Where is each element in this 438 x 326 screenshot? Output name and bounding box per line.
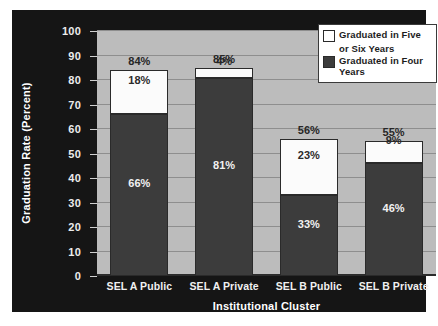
y-tick-label-100: 100 [35, 25, 81, 37]
bar-segment-five-or-six-years[interactable] [195, 68, 253, 78]
bar-total-label: 56% [280, 124, 338, 136]
chart-legend: Graduated in Five or Six Years Graduated… [318, 24, 437, 83]
y-tick-mark-20 [90, 227, 97, 228]
y-tick-mark-90 [90, 56, 97, 57]
y-tick-mark-60 [90, 129, 97, 130]
y-tick-label-70: 70 [35, 99, 81, 111]
chart-figure: Graduation Rate (Percent) 66%18%84%81%4%… [0, 0, 438, 326]
bar-value-label-five-or-six-years: 18% [110, 74, 168, 86]
legend-label-four-years: Graduated in Four Years [339, 55, 432, 77]
bar-group[interactable]: 81%4%85% [195, 31, 253, 276]
y-tick-mark-10 [90, 252, 97, 253]
bar-value-label-four-years: 66% [110, 177, 168, 189]
x-tick-label: SEL B Private [351, 280, 436, 292]
legend-label-five-or-six-years-line2: or Six Years [339, 43, 394, 54]
y-tick-mark-80 [90, 80, 97, 81]
bar-segment-four-years[interactable] [365, 163, 423, 276]
y-tick-mark-0 [90, 276, 97, 277]
legend-entry-five-or-six-years: Graduated in Five [323, 29, 432, 42]
x-tick-label: SEL A Public [97, 280, 182, 292]
y-tick-label-30: 30 [35, 197, 81, 209]
bar-total-label: 55% [365, 126, 423, 138]
bar-segment-five-or-six-years[interactable] [280, 139, 338, 195]
y-tick-label-60: 60 [35, 123, 81, 135]
y-tick-label-50: 50 [35, 148, 81, 160]
legend-entry-four-years: Graduated in Four Years [323, 55, 432, 77]
legend-swatch-four-years [323, 56, 335, 68]
bar-value-label-four-years: 33% [280, 218, 338, 230]
y-axis-title: Graduation Rate (Percent) [20, 82, 32, 223]
bar-total-label: 84% [110, 55, 168, 67]
y-tick-label-40: 40 [35, 172, 81, 184]
x-axis-title: Institutional Cluster [97, 300, 436, 312]
y-tick-label-90: 90 [35, 50, 81, 62]
bar-value-label-five-or-six-years: 23% [280, 149, 338, 161]
y-tick-mark-40 [90, 178, 97, 179]
y-tick-mark-30 [90, 203, 97, 204]
y-tick-label-10: 10 [35, 246, 81, 258]
legend-swatch-five-or-six-years [323, 30, 335, 42]
x-tick-label: SEL B Public [267, 280, 352, 292]
bar-segment-four-years[interactable] [110, 114, 168, 276]
bar-segment-four-years[interactable] [280, 195, 338, 276]
bar-segment-four-years[interactable] [195, 78, 253, 276]
x-tick-label: SEL A Private [182, 280, 267, 292]
y-tick-label-0: 0 [35, 270, 81, 282]
legend-label-five-or-six-years: Graduated in Five [339, 29, 421, 40]
y-tick-mark-100 [90, 31, 97, 32]
y-tick-label-80: 80 [35, 74, 81, 86]
y-tick-label-20: 20 [35, 221, 81, 233]
bar-total-label: 85% [195, 53, 253, 65]
y-tick-mark-70 [90, 105, 97, 106]
y-tick-mark-50 [90, 154, 97, 155]
chart-panel: Graduation Rate (Percent) 66%18%84%81%4%… [12, 10, 426, 312]
bar-group[interactable]: 66%18%84% [110, 31, 168, 276]
bar-value-label-four-years: 81% [195, 159, 253, 171]
legend-entry-five-or-six-years-line2: or Six Years [323, 43, 432, 54]
bar-value-label-four-years: 46% [365, 202, 423, 214]
